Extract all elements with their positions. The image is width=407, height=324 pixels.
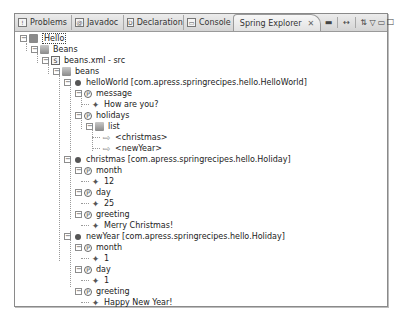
tree-line: [81, 203, 89, 205]
tab-problems[interactable]: ! Problems: [15, 15, 72, 30]
collapse-toggle[interactable]: −: [75, 266, 82, 273]
value-icon: ✦: [91, 298, 100, 307]
value-icon: ✦: [91, 221, 100, 230]
property-icon: P: [84, 211, 92, 219]
value-icon: ✦: [91, 100, 100, 109]
property-icon: P: [84, 244, 92, 252]
tree-node-value[interactable]: ✦ How are you?: [91, 99, 158, 110]
tree-node-value[interactable]: ✦ 25: [91, 198, 114, 209]
collapse-toggle[interactable]: −: [86, 123, 93, 130]
tree-line: [81, 302, 89, 304]
collapse-toggle[interactable]: −: [75, 189, 82, 196]
tree-node-project[interactable]: − Hello: [20, 33, 66, 44]
spring-explorer-tree: − Hello − Beans − S beans.xml - src − be…: [17, 33, 387, 306]
tree-node-list[interactable]: − list: [86, 121, 120, 132]
tree-node-beans-folder[interactable]: − beans: [53, 66, 99, 77]
tree-node-value[interactable]: ✦ 12: [91, 176, 114, 187]
tree-line: [81, 225, 89, 227]
toolbar-separator: [355, 17, 356, 28]
tree-line: [92, 148, 100, 150]
tree-node-ref-newyear[interactable]: ⇨ <newYear>: [102, 143, 162, 154]
console-icon: ▭: [187, 18, 196, 27]
property-icon: P: [84, 288, 92, 296]
property-icon: P: [84, 189, 92, 197]
tree-line: [81, 280, 89, 282]
view-tab-bar: ! Problems @ Javadoc D Declaration ▭ Con…: [15, 14, 387, 32]
property-icon: P: [84, 112, 92, 120]
bean-icon: [75, 80, 81, 86]
list-icon: [95, 122, 104, 131]
tree-node-property-holidays[interactable]: − P holidays: [75, 110, 129, 121]
collapse-toggle[interactable]: −: [64, 233, 71, 240]
tree-line: [70, 163, 72, 219]
collapse-toggle[interactable]: −: [20, 35, 27, 42]
tab-declaration[interactable]: D Declaration: [124, 15, 184, 30]
tree-node-ref-christmas[interactable]: ⇨ <christmas>: [102, 132, 168, 143]
collapse-toggle[interactable]: −: [75, 244, 82, 251]
tree-line: [81, 104, 89, 106]
collapse-toggle[interactable]: −: [75, 288, 82, 295]
bean-reference-icon: ⇨: [102, 133, 111, 142]
xml-file-icon: S: [51, 56, 60, 65]
value-icon: ✦: [91, 276, 100, 285]
problems-icon: !: [18, 18, 27, 27]
collapse-toggle[interactable]: −: [64, 79, 71, 86]
spring-beans-icon: [40, 45, 49, 54]
collapse-toggle[interactable]: −: [75, 112, 82, 119]
tree-node-value[interactable]: ✦ 1: [91, 253, 109, 264]
link-with-editor-icon[interactable]: ↔: [341, 17, 352, 28]
javadoc-icon: @: [75, 18, 84, 27]
collapse-toggle[interactable]: −: [31, 46, 38, 53]
toolbar-separator: [337, 17, 338, 28]
collapse-toggle[interactable]: −: [64, 156, 71, 163]
spring-explorer-view: ! Problems @ Javadoc D Declaration ▭ Con…: [14, 13, 388, 307]
value-icon: ✦: [91, 199, 100, 208]
tree-line: [81, 181, 89, 183]
bean-icon: [75, 234, 81, 240]
tree-node-property-greeting[interactable]: − P greeting: [75, 209, 130, 220]
tab-spring-explorer[interactable]: Spring Explorer ✕: [233, 14, 321, 31]
collapse-toggle[interactable]: −: [53, 68, 60, 75]
value-icon: ✦: [91, 254, 100, 263]
value-icon: ✦: [91, 177, 100, 186]
close-tab-icon[interactable]: ✕: [307, 19, 314, 28]
tree-node-value[interactable]: ✦ Happy New Year!: [91, 297, 173, 308]
tree-node-config-file[interactable]: − S beans.xml - src: [42, 55, 125, 66]
tree-line: [26, 43, 28, 51]
bean-reference-icon: ⇨: [102, 144, 111, 153]
tree-node-value[interactable]: ✦ Merry Christmas!: [91, 220, 173, 231]
tree-node-property-message[interactable]: − P message: [75, 88, 132, 99]
tree-node-bean-newyear[interactable]: − newYear [com.apress.springrecipes.hell…: [64, 231, 285, 242]
tree-node-property-greeting[interactable]: − P greeting: [75, 286, 130, 297]
collapse-toggle[interactable]: −: [75, 211, 82, 218]
tab-console[interactable]: ▭ Console: [184, 15, 235, 30]
bean-icon: [75, 157, 81, 163]
tree-node-bean-christmas[interactable]: − christmas [com.apress.springrecipes.he…: [64, 154, 291, 165]
project-icon: [29, 34, 38, 43]
property-icon: P: [84, 266, 92, 274]
tree-line: [59, 75, 61, 261]
maximize-icon[interactable]: □: [385, 16, 396, 27]
collapse-all-icon[interactable]: ▬: [323, 17, 334, 28]
tree-line: [92, 137, 100, 139]
tab-javadoc[interactable]: @ Javadoc: [72, 15, 124, 30]
beans-folder-icon: [62, 67, 71, 76]
tree-node-bean-helloworld[interactable]: − helloWorld [com.apress.springrecipes.h…: [64, 77, 307, 88]
tree-line: [81, 258, 89, 260]
property-icon: P: [84, 167, 92, 175]
tree-node-property-month[interactable]: − P month: [75, 165, 122, 176]
collapse-toggle[interactable]: −: [75, 90, 82, 97]
tree-node-value[interactable]: ✦ 1: [91, 275, 109, 286]
declaration-icon: D: [127, 18, 134, 27]
property-icon: P: [84, 90, 92, 98]
tree-node-property-month[interactable]: − P month: [75, 242, 122, 253]
tree-node-property-day[interactable]: − P day: [75, 264, 111, 275]
tree-node-beans[interactable]: − Beans: [31, 44, 78, 55]
collapse-toggle[interactable]: −: [42, 57, 49, 64]
tree-line: [70, 85, 72, 152]
collapse-toggle[interactable]: −: [75, 167, 82, 174]
tree-node-property-day[interactable]: − P day: [75, 187, 111, 198]
